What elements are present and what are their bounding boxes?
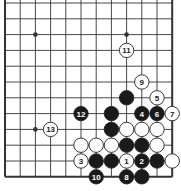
white-stone (135, 122, 149, 136)
white-stone (89, 138, 103, 152)
white-stone (150, 138, 164, 152)
star-point (33, 127, 38, 132)
black-stone (104, 106, 118, 120)
white-stone (165, 154, 179, 168)
move-number: 3 (79, 157, 84, 166)
white-stone: 5 (150, 91, 164, 105)
black-stone: 8 (119, 170, 133, 184)
black-stone: 10 (89, 170, 103, 184)
move-number: 11 (122, 46, 131, 55)
black-stone (119, 138, 133, 152)
black-stone (89, 154, 103, 168)
white-stone: 1 (119, 154, 133, 168)
move-number: 6 (155, 110, 160, 119)
move-number: 7 (170, 110, 175, 119)
white-stone (119, 122, 133, 136)
move-number: 8 (124, 173, 129, 182)
white-stone (74, 138, 88, 152)
star-point (124, 32, 129, 37)
black-stone (150, 154, 164, 168)
white-stone: 7 (165, 106, 179, 120)
black-stone (135, 138, 149, 152)
black-stone (119, 91, 133, 105)
move-number: 10 (92, 173, 101, 182)
white-stone (104, 138, 118, 152)
black-stone (135, 170, 149, 184)
move-number: 13 (46, 125, 55, 134)
black-stone: 4 (135, 106, 149, 120)
move-number: 4 (140, 110, 145, 119)
black-stone: 2 (135, 154, 149, 168)
move-number: 9 (140, 78, 145, 87)
move-number: 2 (140, 157, 145, 166)
black-stone: 12 (74, 106, 88, 120)
white-stone: 13 (43, 122, 57, 136)
black-stone (104, 122, 118, 136)
move-number: 5 (155, 94, 160, 103)
star-point (33, 32, 38, 37)
black-stone (104, 154, 118, 168)
black-stone: 6 (150, 106, 164, 120)
move-number: 1 (124, 157, 129, 166)
white-stone: 3 (74, 154, 88, 168)
white-stone (150, 122, 164, 136)
move-number: 12 (77, 110, 86, 119)
go-board: 11951246713312108 (0, 0, 181, 191)
white-stone: 11 (119, 43, 133, 57)
white-stone: 9 (135, 75, 149, 89)
